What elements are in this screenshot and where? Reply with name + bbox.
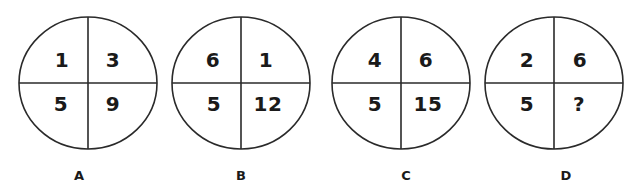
circle-d-top-left: 2 bbox=[502, 48, 552, 72]
circle-b-label: B bbox=[226, 168, 256, 184]
circle-d-shape bbox=[485, 17, 623, 149]
circle-d-top-right: 6 bbox=[555, 48, 605, 72]
circle-d-bottom-left: 5 bbox=[502, 92, 552, 116]
circle-c-top-right: 6 bbox=[401, 48, 451, 72]
circle-b-top-left: 6 bbox=[188, 48, 238, 72]
circle-a-top-right: 3 bbox=[88, 48, 138, 72]
circle-a-top-left: 1 bbox=[37, 48, 87, 72]
circle-a-bottom-right: 9 bbox=[88, 92, 138, 116]
circle-c-shape bbox=[332, 17, 470, 149]
circle-c-top-left: 4 bbox=[350, 48, 400, 72]
circle-c-bottom-right: 15 bbox=[403, 92, 453, 116]
circle-b-bottom-left: 5 bbox=[189, 92, 239, 116]
circle-d-label: D bbox=[551, 168, 581, 184]
circle-a-shape bbox=[19, 17, 157, 149]
circle-b-bottom-right: 12 bbox=[243, 92, 293, 116]
circle-a-bottom-left: 5 bbox=[36, 92, 86, 116]
number-circle-puzzle: 1 3 5 9 A 6 1 5 12 B 4 6 5 15 C 2 6 5 ? … bbox=[0, 0, 640, 192]
circle-a-label: A bbox=[64, 168, 94, 184]
circle-b-shape bbox=[172, 17, 310, 149]
circle-c-label: C bbox=[391, 168, 421, 184]
circle-c-bottom-left: 5 bbox=[350, 92, 400, 116]
circle-d-bottom-right-unknown: ? bbox=[554, 92, 604, 116]
circle-b-top-right: 1 bbox=[241, 48, 291, 72]
